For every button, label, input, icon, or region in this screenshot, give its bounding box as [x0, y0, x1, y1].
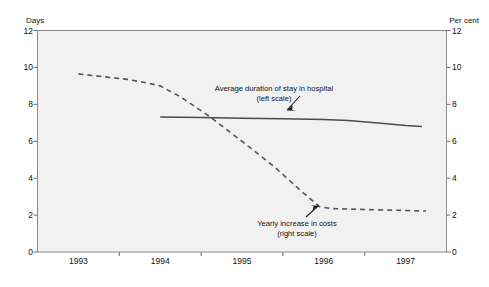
annotation-line-1: Yearly increase in costs [222, 219, 372, 229]
x-axis-tick-label: 1997 [396, 256, 415, 266]
right-axis-tick-label: 6 [452, 136, 457, 146]
x-axis-tick-label: 1996 [314, 256, 333, 266]
right-axis-tick-label: 4 [452, 173, 457, 183]
right-axis-tick-label: 8 [452, 99, 457, 109]
annotation-yearly-increase-in-costs: Yearly increase in costs (right scale) [222, 219, 372, 238]
left-axis-tick-label: 8 [11, 99, 33, 109]
annotation-average-duration-of-stay: Average duration of stay in hospital (le… [194, 84, 354, 103]
x-axis-tick-label: 1995 [233, 256, 252, 266]
annotation-line-1: Average duration of stay in hospital [194, 84, 354, 94]
left-axis-tick-label: 2 [11, 210, 33, 220]
left-axis-tick-label: 12 [11, 26, 33, 36]
left-axis-tick-label: 10 [11, 62, 33, 72]
chart-canvas [0, 0, 489, 287]
chart-figure: Days Per cent 121086420 121086420 199319… [0, 0, 489, 287]
annotation-line-2: (left scale) [194, 94, 354, 104]
annotation-line-2: (right scale) [222, 229, 372, 239]
left-axis-tick-label: 4 [11, 173, 33, 183]
x-axis-tick-label: 1993 [69, 256, 88, 266]
right-axis-tick-label: 12 [452, 26, 461, 36]
right-axis-tick-marks [447, 31, 451, 253]
right-axis-tick-label: 2 [452, 210, 457, 220]
right-axis-tick-label: 0 [452, 247, 457, 257]
right-axis-tick-label: 10 [452, 62, 461, 72]
left-axis-tick-marks [34, 31, 38, 253]
left-axis-tick-label: 6 [11, 136, 33, 146]
left-axis-tick-label: 0 [11, 247, 33, 257]
x-axis-tick-label: 1994 [151, 256, 170, 266]
